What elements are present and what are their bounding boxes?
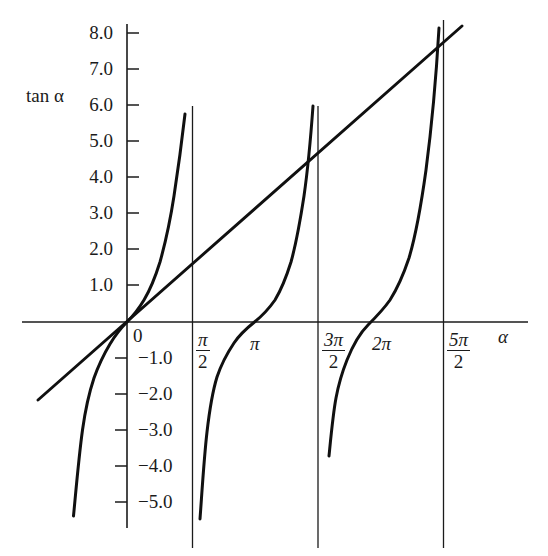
x-tick-3pi-over-2-numerator: 3π [322,330,345,351]
x-tick-pi-over-2-numerator: π [196,330,210,351]
y-tick-label-neg4: −4.0 [138,455,172,477]
y-tick-label-6: 6.0 [55,94,113,116]
y-tick-label-3: 3.0 [55,202,113,224]
x-tick-label-5pi-over-2: 5π 2 [447,330,470,371]
x-axis-title-text: α [498,326,508,347]
y-tick-label-1: 1.0 [55,274,113,296]
x-tick-label-pi-over-2: π 2 [196,330,210,371]
tangent-branch-3 [329,28,439,456]
x-tick-pi-over-2-denominator: 2 [196,351,210,371]
y-tick-label-7: 7.0 [55,58,113,80]
x-tick-label-3pi-over-2: 3π 2 [322,330,345,371]
origin-label: 0 [133,325,143,347]
x-tick-label-2pi: 2π [372,333,391,355]
x-tick-5pi-over-2-numerator: 5π [447,330,470,351]
x-tick-5pi-over-2-denominator: 2 [447,351,470,371]
y-tick-label-neg3: −3.0 [138,419,172,441]
y-tick-label-neg2: −2.0 [138,383,172,405]
y-tick-label-4: 4.0 [55,166,113,188]
x-tick-3pi-over-2-denominator: 2 [322,351,345,371]
y-tick-label-neg5: −5.0 [138,491,172,513]
tangent-branch-2 [200,106,313,519]
x-axis-title: α [498,326,508,348]
y-tick-label-8: 8.0 [55,22,113,44]
tangent-function-plot: tan α α 8.0 7.0 6.0 5.0 4.0 3.0 2.0 1.0 … [0,0,548,556]
y-tick-label-2: 2.0 [55,238,113,260]
x-tick-label-pi: π [250,333,260,355]
y-tick-label-neg1: −1.0 [138,347,172,369]
y-tick-label-5: 5.0 [55,130,113,152]
